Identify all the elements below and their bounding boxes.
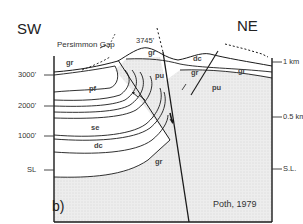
- unit-se: se: [91, 124, 99, 132]
- right-axis-tick-1km: 1 km: [283, 58, 299, 66]
- unit-gr-fault: gr: [191, 69, 199, 77]
- unit-gr-left: gr: [66, 59, 74, 67]
- direction-sw: SW: [17, 21, 41, 36]
- unit-gr-lower: gr: [155, 158, 163, 166]
- peak-elevation: 3745': [136, 37, 154, 45]
- unit-dc: dc: [94, 142, 103, 150]
- right-axis-tick-05km: 0.5 km: [283, 113, 303, 121]
- unit-gr-upper: gr: [148, 49, 156, 57]
- direction-ne: NE: [237, 18, 258, 33]
- right-axis-tick-sl: S.L.: [283, 165, 296, 173]
- unit-dc-upper: dc: [193, 55, 202, 63]
- gr-basement-left: [54, 140, 189, 222]
- unit-gr-right: gr: [238, 67, 246, 75]
- left-axis-tick-sl: SL: [27, 166, 36, 174]
- panel-label: b): [52, 199, 64, 213]
- left-axis-tick-1000: 1000': [18, 132, 36, 140]
- unit-pu: pu: [155, 72, 164, 80]
- left-axis-tick-2000: 2000': [18, 102, 36, 110]
- unit-pf: pf: [89, 85, 96, 93]
- place-label-persimmon-gap: Persimmon Gap: [57, 41, 115, 49]
- left-axis-tick-3000: 3000': [18, 71, 36, 79]
- credit-citation: Poth, 1979: [213, 200, 257, 209]
- unit-pu-right: pu: [212, 84, 221, 92]
